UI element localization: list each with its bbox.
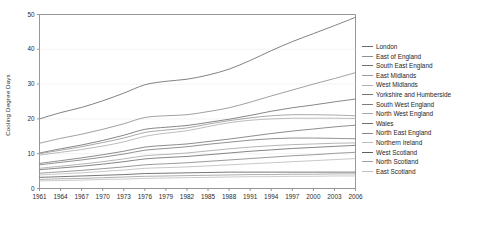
legend-item-label: North Scotland <box>376 157 418 167</box>
legend-line-swatch <box>362 113 373 114</box>
legend-item[interactable]: North East England <box>362 128 478 138</box>
legend-item-label: North West England <box>376 109 433 119</box>
legend-item[interactable]: Wales <box>362 119 478 129</box>
legend-line-swatch <box>362 104 373 105</box>
legend-line-swatch <box>362 46 373 47</box>
legend-item-label: South East England <box>376 61 433 71</box>
legend-line-swatch <box>362 171 373 172</box>
series-line <box>40 17 356 119</box>
legend-item-label: Yorkshire and Humberside <box>376 90 451 100</box>
legend-item-label: West Midlands <box>376 80 418 90</box>
legend-line-swatch <box>362 85 373 86</box>
legend-item-label: East Midlands <box>376 71 416 81</box>
legend-line-swatch <box>362 94 373 95</box>
legend-line-swatch <box>362 65 373 66</box>
legend-line-swatch <box>362 142 373 143</box>
legend-item[interactable]: West Midlands <box>362 80 478 90</box>
legend-item[interactable]: East Midlands <box>362 71 478 81</box>
legend-item-label: Northern Ireland <box>376 138 422 148</box>
legend-item[interactable]: North West England <box>362 109 478 119</box>
legend-line-swatch <box>362 152 373 153</box>
legend-item-label: Wales <box>376 119 394 129</box>
legend-item[interactable]: East of England <box>362 52 478 62</box>
legend-item[interactable]: Northern Ireland <box>362 138 478 148</box>
chart-legend: LondonEast of EnglandSouth East EnglandE… <box>362 42 478 176</box>
chart-figure: Cooling Degree Days 01020304050 19611964… <box>0 0 480 226</box>
legend-item[interactable]: North Scotland <box>362 157 478 167</box>
legend-line-swatch <box>362 75 373 76</box>
series-line <box>40 73 356 144</box>
legend-item-label: East Scotland <box>376 167 415 177</box>
legend-item-label: West Scotland <box>376 148 417 158</box>
legend-line-swatch <box>362 133 373 134</box>
legend-item-label: South West England <box>376 100 434 110</box>
legend-item-label: North East England <box>376 128 431 138</box>
legend-item[interactable]: South East England <box>362 61 478 71</box>
legend-item[interactable]: East Scotland <box>362 167 478 177</box>
legend-line-swatch <box>362 161 373 162</box>
legend-item-label: London <box>376 42 397 52</box>
legend-item[interactable]: West Scotland <box>362 148 478 158</box>
legend-item-label: East of England <box>376 52 421 62</box>
legend-line-swatch <box>362 123 373 124</box>
legend-item[interactable]: Yorkshire and Humberside <box>362 90 478 100</box>
legend-item[interactable]: London <box>362 42 478 52</box>
legend-item[interactable]: South West England <box>362 100 478 110</box>
legend-line-swatch <box>362 56 373 57</box>
